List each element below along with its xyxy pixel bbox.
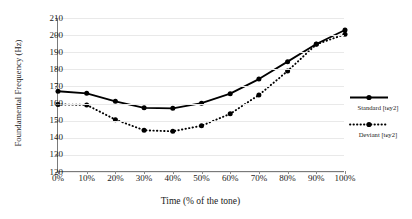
data-point	[343, 27, 348, 32]
data-point	[170, 106, 175, 111]
y-tick-label: 190	[23, 48, 63, 57]
y-gridline	[58, 69, 344, 70]
data-point	[142, 105, 147, 110]
legend-item-standard: Standard [tɕy2]	[344, 92, 412, 112]
legend-swatch-deviant	[344, 119, 412, 130]
legend-label-deviant: Deviant [tɕy2]	[344, 130, 412, 139]
y-tick-label: 170	[23, 82, 63, 91]
y-tick-label: 210	[23, 14, 63, 23]
legend-label-standard: Standard [tɕy2]	[344, 103, 412, 112]
data-point	[199, 123, 204, 128]
data-point	[228, 91, 233, 96]
y-tick-label: 200	[23, 31, 63, 40]
data-point	[256, 77, 261, 82]
data-point	[84, 91, 89, 96]
chart-legend: Standard [tɕy2] Deviant [tɕy2]	[344, 92, 412, 146]
data-point	[314, 42, 319, 47]
y-axis-title: Foundamental Frequency (Hz)	[13, 13, 23, 173]
chart-figure: Foundamental Frequency (Hz) 0%10%20%30%4…	[0, 0, 412, 219]
y-tick-label: 180	[23, 65, 63, 74]
y-tick-label: 160	[23, 99, 63, 108]
y-gridline	[58, 35, 344, 36]
y-gridline	[58, 52, 344, 53]
x-tick-label: 100%	[325, 174, 365, 183]
y-gridline	[58, 138, 344, 139]
y-tick-label: 140	[23, 133, 63, 142]
legend-item-deviant: Deviant [tɕy2]	[344, 119, 412, 139]
y-tick-label: 120	[23, 168, 63, 177]
series-line-deviant	[58, 34, 345, 131]
y-tick-label: 150	[23, 116, 63, 125]
y-gridline	[58, 155, 344, 156]
data-point	[256, 93, 261, 98]
series-layer	[58, 18, 345, 172]
y-gridline	[58, 18, 344, 19]
y-gridline	[58, 104, 344, 105]
y-tick-label: 130	[23, 150, 63, 159]
x-axis-title: Time (% of the tone)	[57, 196, 344, 206]
y-gridline	[58, 121, 344, 122]
data-point	[142, 128, 147, 133]
plot-area: 0%10%20%30%40%50%60%70%80%90%100%	[57, 18, 344, 172]
y-gridline	[58, 86, 344, 87]
data-point	[285, 59, 290, 64]
legend-swatch-standard	[344, 92, 412, 103]
data-point	[228, 111, 233, 116]
data-point	[170, 129, 175, 134]
